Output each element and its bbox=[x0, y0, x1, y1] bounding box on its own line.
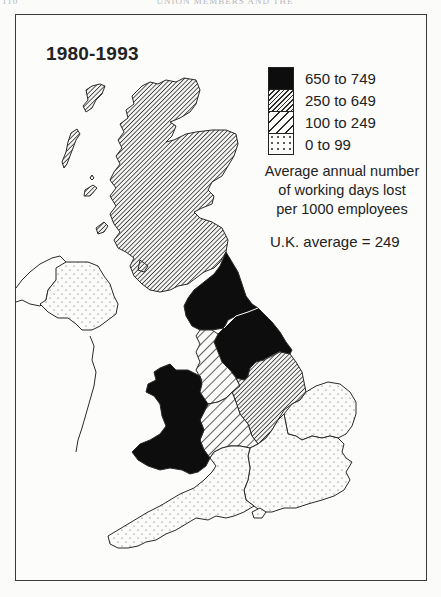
region-scotland bbox=[110, 78, 238, 292]
legend-swatch-solid-black bbox=[268, 67, 294, 89]
legend-label: 650 to 749 bbox=[305, 70, 376, 87]
legend-note-line: per 1000 employees bbox=[252, 200, 432, 219]
legend-item-250-649: 250 to 649 bbox=[268, 89, 376, 111]
region-wales bbox=[132, 364, 210, 474]
legend-swatch-wide-hatch bbox=[268, 111, 294, 133]
legend-label: 100 to 249 bbox=[305, 114, 376, 131]
legend-label: 250 to 649 bbox=[305, 92, 376, 109]
region-northern-ireland bbox=[40, 262, 118, 330]
map-period-title: 1980-1993 bbox=[46, 43, 139, 65]
legend-swatch-dots bbox=[268, 133, 294, 155]
legend-swatch-dense-hatch bbox=[268, 89, 294, 111]
legend-note-line: of working days lost bbox=[252, 181, 432, 200]
legend-note-line: Average annual number bbox=[252, 162, 432, 181]
uk-average-label: U.K. average = 249 bbox=[270, 233, 400, 250]
legend-description: Average annual number of working days lo… bbox=[252, 162, 432, 219]
legend-item-100-249: 100 to 249 bbox=[268, 111, 376, 133]
legend-label: 0 to 99 bbox=[305, 136, 351, 153]
legend-item-650-749: 650 to 749 bbox=[268, 67, 376, 89]
legend-item-0-99: 0 to 99 bbox=[268, 133, 376, 155]
region-scotland-islands bbox=[62, 84, 108, 234]
legend: 650 to 749 250 to 649 100 to 249 0 to 99 bbox=[268, 67, 376, 155]
